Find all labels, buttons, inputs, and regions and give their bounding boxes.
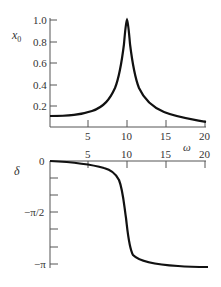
top-xtick-5: 5 xyxy=(85,131,91,142)
bottom-xtick-10: 10 xyxy=(121,149,132,160)
ytick-minus-pi: −π xyxy=(34,259,46,270)
ytick-0.6: 0.6 xyxy=(33,58,47,69)
ylabel-subscript: 0 xyxy=(17,35,21,44)
amplitude-curve xyxy=(50,20,206,122)
top-xtick-15: 15 xyxy=(160,131,171,142)
bottom-xtick-20: 20 xyxy=(199,149,210,160)
top-xtick-20: 20 xyxy=(199,131,210,142)
ytick-0.8: 0.8 xyxy=(33,37,47,48)
x-axis-label-omega: ω xyxy=(183,142,191,153)
bottom-y-axis-label-delta: δ xyxy=(14,166,20,177)
bottom-xtick-15: 15 xyxy=(160,149,171,160)
top-axes xyxy=(50,18,206,127)
bottom-xtick-5: 5 xyxy=(85,149,91,160)
ytick-1.0: 1.0 xyxy=(33,15,47,26)
ytick-minus-pi-over-2: −π/2 xyxy=(24,207,44,218)
top-xtick-10: 10 xyxy=(121,131,132,142)
ytick-0.4: 0.4 xyxy=(33,80,47,91)
phase-curve xyxy=(50,161,208,267)
top-y-axis-label: x0 xyxy=(12,30,21,45)
bottom-axes xyxy=(50,161,206,268)
ytick-0.2: 0.2 xyxy=(33,101,47,112)
ytick-0: 0 xyxy=(39,156,45,167)
